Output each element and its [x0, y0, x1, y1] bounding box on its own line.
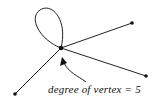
degree-caption: degree of vertex = 5 — [48, 83, 141, 95]
loop-edge — [35, 8, 62, 48]
arrow-head-icon — [60, 57, 67, 66]
vertex-bottom-right — [144, 74, 148, 78]
central-vertex — [59, 46, 64, 51]
vertex-top-right — [130, 21, 134, 25]
pointer-arrow — [64, 63, 86, 82]
edge-bottom-right — [61, 48, 146, 76]
vertex-bottom-left — [13, 92, 17, 96]
edge-top-right — [61, 23, 132, 48]
diagram-canvas: degree of vertex = 5 — [0, 0, 160, 106]
